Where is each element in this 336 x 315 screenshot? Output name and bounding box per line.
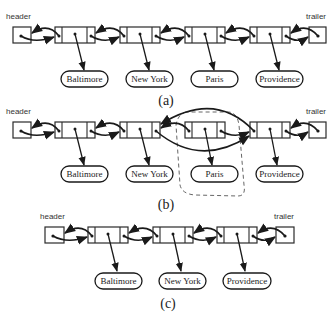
svg-text:Baltimore: Baltimore <box>101 276 137 286</box>
element-paris: Paris <box>191 71 238 87</box>
header-label: header <box>6 12 31 21</box>
element-new-york: New York <box>126 71 173 87</box>
element-paris: Paris <box>191 166 238 182</box>
trailer-label: trailer <box>306 107 326 116</box>
element-providence: Providence <box>223 273 271 289</box>
trailer-label: trailer <box>306 12 326 21</box>
svg-text:New York: New York <box>131 169 168 179</box>
svg-text:New York: New York <box>164 276 201 286</box>
svg-text:Providence: Providence <box>259 169 300 179</box>
svg-text:Paris: Paris <box>206 74 224 84</box>
svg-text:New York: New York <box>131 74 168 84</box>
element-baltimore: Baltimore <box>61 166 108 182</box>
panel-c: header trailer <box>40 212 294 312</box>
element-baltimore: Baltimore <box>95 273 142 289</box>
svg-text:Paris: Paris <box>206 169 224 179</box>
trailer-label: trailer <box>274 212 294 221</box>
header-node <box>45 227 64 243</box>
caption-c: (c) <box>160 296 176 312</box>
header-node <box>13 122 31 138</box>
svg-text:Baltimore: Baltimore <box>67 74 103 84</box>
element-providence: Providence <box>256 166 303 182</box>
svg-text:Providence: Providence <box>259 74 300 84</box>
element-new-york: New York <box>126 166 173 182</box>
caption-b: (b) <box>158 197 175 213</box>
element-new-york: New York <box>159 273 206 289</box>
caption-a: (a) <box>158 93 174 109</box>
element-providence: Providence <box>256 71 303 87</box>
element-baltimore: Baltimore <box>61 71 108 87</box>
panel-b: header trailer <box>6 107 326 213</box>
header-node <box>13 27 31 43</box>
header-label: header <box>40 212 65 221</box>
panel-a: header trailer <box>6 12 326 109</box>
svg-text:Providence: Providence <box>227 276 268 286</box>
svg-text:Baltimore: Baltimore <box>67 169 103 179</box>
linked-list-diagram: header trailer <box>0 0 336 315</box>
element-arrows <box>75 129 277 165</box>
header-label: header <box>6 107 31 116</box>
